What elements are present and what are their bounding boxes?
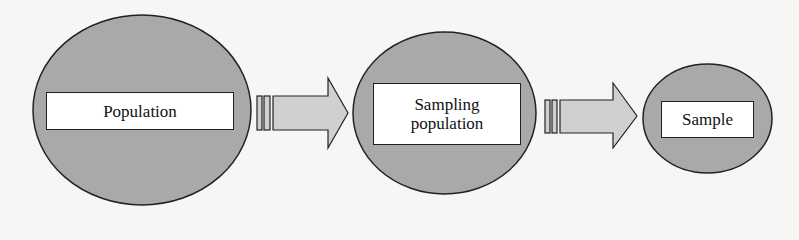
sample-label: Sample xyxy=(661,101,754,138)
sampling-population-text-line2: population xyxy=(411,114,484,133)
sample-text: Sample xyxy=(682,110,733,129)
arrow-right-icon xyxy=(545,83,637,148)
sampling-population-text-line1: Sampling xyxy=(414,95,479,114)
population-text: Population xyxy=(103,102,177,121)
sampling-population-label: Sampling population xyxy=(373,83,521,145)
population-label: Population xyxy=(46,92,234,130)
arrow-right-icon xyxy=(257,78,348,148)
